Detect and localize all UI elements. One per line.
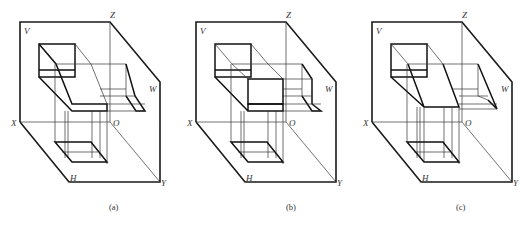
label-w: W (149, 84, 158, 94)
projection-lines (407, 64, 459, 164)
front-box (248, 79, 283, 104)
label-z: Z (110, 10, 116, 20)
label-x: X (186, 118, 193, 128)
label-h: H (245, 173, 253, 183)
label-h: H (421, 173, 429, 183)
w-projection (478, 64, 497, 109)
y-axis (462, 122, 512, 182)
label-z: Z (462, 10, 468, 20)
v-projection-upper-box (215, 44, 251, 77)
label-y: Y (513, 178, 519, 188)
panel-b: V Z W X O H Y (b) (186, 10, 343, 212)
three-view-projection-figure: V Z W X O H Y (a) V Z W X O H Y (b) (0, 0, 520, 227)
w-projection-top (232, 64, 302, 96)
label-v: V (24, 26, 31, 36)
caption-b: (b) (286, 202, 296, 212)
label-o: O (465, 118, 472, 128)
label-z: Z (286, 10, 292, 20)
y-axis (286, 122, 336, 182)
v-projection-upper-box (391, 44, 427, 77)
label-w: W (501, 84, 510, 94)
label-h: H (69, 173, 77, 183)
caption-a: (a) (109, 202, 119, 212)
caption-c: (c) (456, 202, 466, 212)
label-y: Y (337, 178, 343, 188)
label-v: V (200, 26, 207, 36)
label-o: O (289, 118, 296, 128)
oblique-edge (215, 44, 283, 79)
oblique-edge (75, 44, 107, 104)
step-slab (215, 77, 283, 111)
label-x: X (362, 118, 369, 128)
label-x: X (10, 118, 17, 128)
y-axis (110, 122, 160, 182)
label-w: W (325, 84, 334, 94)
v-projection-upper-box (39, 44, 75, 77)
oblique-edge (391, 44, 478, 64)
label-v: V (376, 26, 383, 36)
panel-c: V Z W X O H Y (c) (362, 10, 519, 212)
label-y: Y (161, 178, 167, 188)
panel-a: V Z W X O H Y (a) (10, 10, 167, 212)
label-o: O (113, 118, 120, 128)
